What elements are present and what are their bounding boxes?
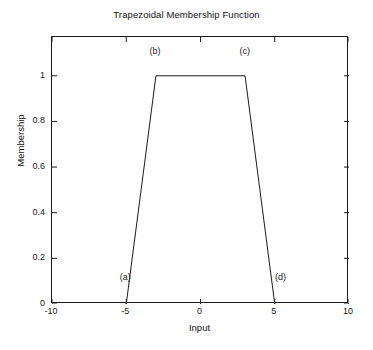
plot-area (51, 36, 348, 303)
x-axis-label: Input (51, 322, 348, 333)
x-tick-label: -5 (121, 306, 129, 316)
x-tick-label: 0 (197, 306, 202, 316)
y-tick-label: 0.6 (32, 161, 45, 171)
chart-figure: Trapezoidal Membership Function 00.20.40… (0, 0, 373, 350)
chart-title: Trapezoidal Membership Function (0, 9, 373, 20)
x-axis-tick-labels: -10-50510 (51, 306, 348, 320)
x-tick-label: 10 (343, 306, 353, 316)
annotation-c: (c) (240, 46, 251, 56)
y-tick-label: 0.8 (32, 115, 45, 125)
plot-canvas (52, 37, 349, 304)
y-tick-label: 0.2 (32, 252, 45, 262)
y-tick-label: 1 (40, 70, 45, 80)
y-tick-label: 0.4 (32, 207, 45, 217)
x-tick-label: -10 (44, 306, 57, 316)
y-axis-label: Membership (15, 81, 26, 201)
trapezoid-membership-line (126, 76, 275, 304)
annotation-b: (b) (149, 46, 160, 56)
annotation-a: (a) (120, 272, 131, 282)
x-tick-label: 5 (271, 306, 276, 316)
annotation-d: (d) (275, 272, 286, 282)
